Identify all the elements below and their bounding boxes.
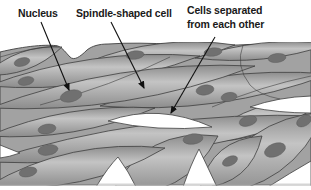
tissue-illustration <box>0 42 311 190</box>
label-cells-separated-line1: Cells separated <box>187 4 262 16</box>
tissue-edge-strip <box>0 184 311 187</box>
smooth-muscle-diagram: Nucleus Spindle-shaped cell Cells separa… <box>0 0 311 190</box>
diagram-canvas: Nucleus Spindle-shaped cell Cells separa… <box>0 0 311 190</box>
label-nucleus: Nucleus <box>18 7 58 19</box>
label-cells-separated-line2: from each other <box>187 18 264 30</box>
label-spindle-shaped-cell: Spindle-shaped cell <box>76 7 172 19</box>
